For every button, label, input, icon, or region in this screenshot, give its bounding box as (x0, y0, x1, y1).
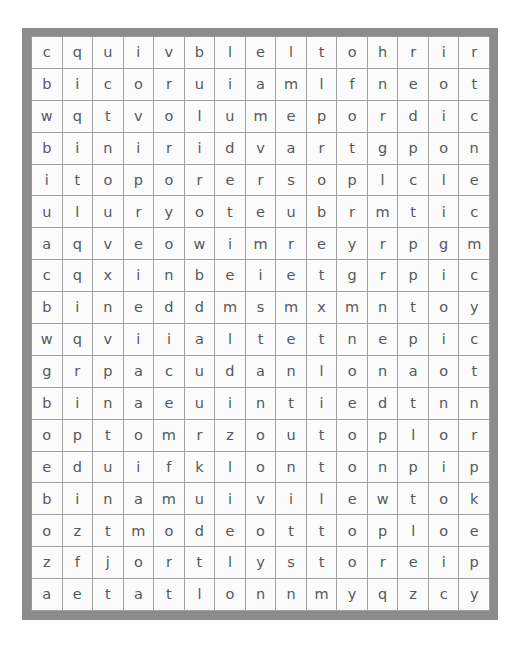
grid-cell[interactable]: d (185, 292, 216, 324)
grid-cell[interactable]: o (124, 547, 155, 579)
grid-cell[interactable]: d (398, 101, 429, 133)
grid-cell[interactable]: l (368, 165, 399, 197)
grid-cell[interactable]: u (276, 196, 307, 228)
grid-cell[interactable]: b (185, 37, 216, 69)
grid-cell[interactable]: z (63, 515, 94, 547)
grid-cell[interactable]: s (276, 165, 307, 197)
grid-cell[interactable]: e (32, 452, 63, 484)
letter-grid[interactable]: cquivbleltohrirbicoruiamlfneotwqtvolumep… (31, 36, 490, 611)
grid-cell[interactable]: p (63, 420, 94, 452)
grid-cell[interactable]: y (459, 292, 490, 324)
grid-cell[interactable]: a (246, 356, 277, 388)
grid-cell[interactable]: i (246, 260, 277, 292)
grid-cell[interactable]: p (368, 420, 399, 452)
grid-cell[interactable]: v (154, 37, 185, 69)
grid-cell[interactable]: l (276, 37, 307, 69)
grid-cell[interactable]: u (93, 452, 124, 484)
grid-cell[interactable]: h (368, 37, 399, 69)
grid-cell[interactable]: a (276, 133, 307, 165)
grid-cell[interactable]: c (429, 579, 460, 611)
grid-cell[interactable]: o (215, 579, 246, 611)
grid-cell[interactable]: z (398, 579, 429, 611)
grid-cell[interactable]: l (185, 101, 216, 133)
grid-cell[interactable]: w (32, 101, 63, 133)
grid-cell[interactable]: u (185, 388, 216, 420)
grid-cell[interactable]: o (154, 228, 185, 260)
grid-cell[interactable]: k (459, 483, 490, 515)
grid-cell[interactable]: m (276, 69, 307, 101)
grid-cell[interactable]: r (276, 228, 307, 260)
grid-cell[interactable]: e (246, 196, 277, 228)
grid-cell[interactable]: e (307, 228, 338, 260)
grid-cell[interactable]: l (429, 165, 460, 197)
grid-cell[interactable]: z (215, 420, 246, 452)
grid-cell[interactable]: l (215, 37, 246, 69)
grid-cell[interactable]: b (185, 260, 216, 292)
grid-cell[interactable]: a (32, 579, 63, 611)
grid-cell[interactable]: i (215, 69, 246, 101)
grid-cell[interactable]: i (185, 133, 216, 165)
grid-cell[interactable]: o (246, 515, 277, 547)
grid-cell[interactable]: u (185, 356, 216, 388)
grid-cell[interactable]: i (63, 69, 94, 101)
grid-cell[interactable]: c (459, 260, 490, 292)
grid-cell[interactable]: m (368, 196, 399, 228)
grid-cell[interactable]: c (32, 260, 63, 292)
grid-cell[interactable]: l (215, 324, 246, 356)
grid-cell[interactable]: m (154, 483, 185, 515)
grid-cell[interactable]: p (398, 228, 429, 260)
grid-cell[interactable]: a (398, 356, 429, 388)
grid-cell[interactable]: n (459, 388, 490, 420)
grid-cell[interactable]: i (429, 37, 460, 69)
grid-cell[interactable]: o (124, 69, 155, 101)
grid-cell[interactable]: d (63, 452, 94, 484)
grid-cell[interactable]: n (368, 292, 399, 324)
grid-cell[interactable]: e (276, 101, 307, 133)
grid-cell[interactable]: t (398, 292, 429, 324)
grid-cell[interactable]: p (459, 452, 490, 484)
grid-cell[interactable]: c (32, 37, 63, 69)
grid-cell[interactable]: t (307, 260, 338, 292)
grid-cell[interactable]: f (63, 547, 94, 579)
grid-cell[interactable]: q (368, 579, 399, 611)
grid-cell[interactable]: o (429, 292, 460, 324)
grid-cell[interactable]: y (337, 579, 368, 611)
grid-cell[interactable]: o (124, 420, 155, 452)
grid-cell[interactable]: p (398, 324, 429, 356)
grid-cell[interactable]: e (368, 324, 399, 356)
grid-cell[interactable]: e (215, 260, 246, 292)
grid-cell[interactable]: t (459, 69, 490, 101)
grid-cell[interactable]: p (398, 133, 429, 165)
grid-cell[interactable]: r (124, 196, 155, 228)
grid-cell[interactable]: n (368, 356, 399, 388)
grid-cell[interactable]: j (93, 547, 124, 579)
grid-cell[interactable]: r (185, 165, 216, 197)
grid-cell[interactable]: e (124, 228, 155, 260)
grid-cell[interactable]: s (276, 547, 307, 579)
grid-cell[interactable]: r (246, 165, 277, 197)
grid-cell[interactable]: t (63, 165, 94, 197)
grid-cell[interactable]: n (368, 452, 399, 484)
grid-cell[interactable]: a (124, 483, 155, 515)
grid-cell[interactable]: m (459, 228, 490, 260)
grid-cell[interactable]: q (63, 324, 94, 356)
grid-cell[interactable]: l (398, 515, 429, 547)
grid-cell[interactable]: v (246, 483, 277, 515)
grid-cell[interactable]: t (337, 133, 368, 165)
grid-cell[interactable]: a (246, 69, 277, 101)
grid-cell[interactable]: o (246, 420, 277, 452)
grid-cell[interactable]: o (429, 356, 460, 388)
grid-cell[interactable]: i (215, 228, 246, 260)
grid-cell[interactable]: a (185, 324, 216, 356)
grid-cell[interactable]: e (459, 515, 490, 547)
grid-cell[interactable]: n (93, 292, 124, 324)
grid-cell[interactable]: e (398, 69, 429, 101)
grid-cell[interactable]: e (246, 37, 277, 69)
grid-cell[interactable]: t (93, 101, 124, 133)
grid-cell[interactable]: d (368, 388, 399, 420)
grid-cell[interactable]: p (307, 101, 338, 133)
grid-cell[interactable]: p (398, 452, 429, 484)
grid-cell[interactable]: v (246, 133, 277, 165)
grid-cell[interactable]: r (398, 37, 429, 69)
grid-cell[interactable]: t (246, 324, 277, 356)
